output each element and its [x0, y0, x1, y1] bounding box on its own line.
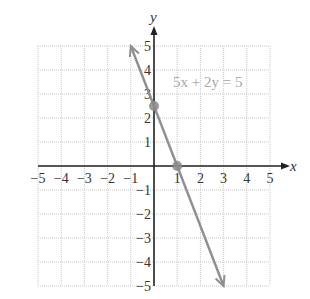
y-tick-label: 2	[144, 111, 151, 126]
y-tick-label: −2	[136, 207, 151, 222]
x-tick-label: −3	[77, 171, 92, 186]
x-axis-label: x	[289, 158, 297, 174]
x-tick-label: 2	[197, 171, 204, 186]
y-tick-label: 4	[144, 63, 151, 78]
y-intercept-point	[149, 101, 159, 111]
x-tick-label: −4	[54, 171, 69, 186]
x-intercept-point	[172, 161, 182, 171]
x-tick-label: −5	[31, 171, 46, 186]
y-tick-label: −1	[136, 183, 151, 198]
y-tick-label: 1	[144, 135, 151, 150]
x-tick-label: −2	[100, 171, 115, 186]
equation-label: 5x + 2y = 5	[173, 74, 242, 90]
x-tick-label: 4	[243, 171, 250, 186]
y-tick-label: −3	[136, 231, 151, 246]
y-tick-label: −5	[136, 279, 151, 294]
x-tick-label: 3	[220, 171, 227, 186]
x-tick-label: 5	[267, 171, 274, 186]
y-tick-label: −4	[136, 255, 151, 270]
chart: −5−4−3−2−112345−5−4−3−2−112345 x y 5x + …	[0, 0, 310, 299]
y-axis-arrow	[151, 26, 158, 35]
axes	[38, 26, 290, 286]
y-axis-label: y	[148, 9, 157, 25]
y-tick-label: 5	[144, 39, 151, 54]
x-axis-arrow	[281, 163, 290, 170]
